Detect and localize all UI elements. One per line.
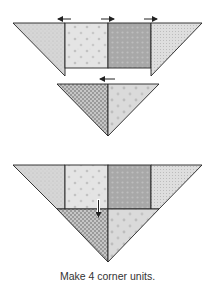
corner-unit-diagram (0, 0, 215, 288)
check-triangle (57, 209, 108, 262)
right-setting-triangle (151, 165, 202, 209)
step3-corner-unit (13, 165, 202, 262)
star-print-square (65, 23, 108, 68)
right-setting-triangle (151, 23, 202, 76)
light-star-triangle (108, 84, 159, 136)
left-setting-triangle (13, 23, 65, 76)
check-triangle (57, 84, 108, 136)
medium-dot-square (108, 165, 151, 209)
medium-dot-square (108, 23, 151, 68)
arrow-down-icon (97, 199, 100, 217)
step1-row (13, 23, 202, 76)
left-setting-triangle (13, 165, 65, 209)
star-print-square (65, 165, 108, 209)
caption: Make 4 corner units. (0, 270, 215, 282)
light-star-triangle (108, 209, 159, 262)
step2-triangle-unit (57, 84, 159, 136)
